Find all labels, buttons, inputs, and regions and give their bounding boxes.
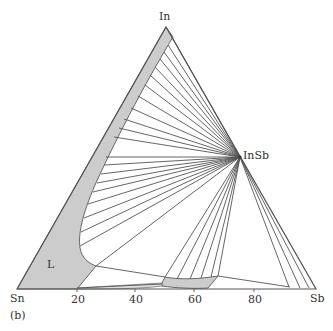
tick-label-40: 40	[129, 294, 143, 305]
tick-label-60: 60	[188, 294, 202, 305]
panel-label: (b)	[10, 310, 26, 321]
vertex-label-sb: Sb	[310, 293, 325, 304]
vertex-label-sn: Sn	[10, 293, 25, 304]
compound-label-insb: InSb	[243, 150, 269, 161]
tick-label-20: 20	[71, 294, 85, 305]
region-label-l: L	[47, 259, 54, 270]
tie-lines-to-bottom	[165, 157, 309, 288]
ternary-diagram	[0, 0, 333, 331]
liquid-region	[17, 27, 173, 289]
vertex-label-in: In	[159, 11, 170, 22]
insb-point	[239, 156, 242, 159]
tick-label-80: 80	[248, 294, 262, 305]
